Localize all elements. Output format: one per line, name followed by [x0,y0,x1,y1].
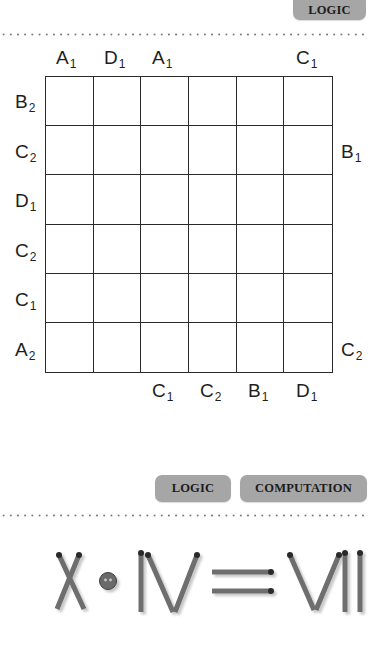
left_labels-label: D1 [15,191,36,213]
grid-cell[interactable] [141,175,189,224]
grid-cell[interactable] [46,323,94,372]
left_labels-label: C1 [15,290,36,312]
grid-cell[interactable] [237,175,285,224]
grid-cell[interactable] [284,274,332,323]
label-letter: C [15,289,29,310]
top_labels-label: A1 [152,48,172,70]
label-letter: B [341,141,354,162]
label-subscript: 1 [167,390,174,404]
bottom_labels-label: C2 [200,381,221,403]
label-letter: D [296,380,310,401]
left_labels-label: A2 [15,340,35,362]
grid-cell[interactable] [46,77,94,126]
grid-cell[interactable] [94,274,142,323]
equals-sign [212,569,274,594]
grid-cell[interactable] [284,126,332,175]
label-subscript: 1 [30,299,37,313]
label-letter: C [341,339,355,360]
badge-label: COMPUTATION [255,481,352,496]
badge-label: LOGIC [172,481,215,496]
bottom_labels-label: B1 [248,381,268,403]
label-letter: D [15,190,29,211]
grid-cell[interactable] [141,77,189,126]
label-subscript: 2 [356,349,363,363]
label-letter: C [200,380,214,401]
top_labels-label: C1 [296,48,317,70]
grid-cell[interactable] [141,274,189,323]
grid-cell[interactable] [237,323,285,372]
left_labels-label: C2 [15,241,36,263]
grid-cell[interactable] [46,126,94,175]
grid-cell[interactable] [237,274,285,323]
label-subscript: 2 [29,101,36,115]
grid-cell[interactable] [237,126,285,175]
grid-cell[interactable] [189,77,237,126]
label-letter: A [152,47,165,68]
numeral-x [56,552,84,609]
grid-cell[interactable] [94,77,142,126]
grid-cell[interactable] [46,274,94,323]
grid-cell[interactable] [94,175,142,224]
left_labels-label: B2 [15,92,35,114]
grid-cell[interactable] [189,323,237,372]
label-letter: A [56,47,69,68]
grid-cell[interactable] [189,225,237,274]
dotted-divider-top [0,33,368,36]
label-subscript: 2 [30,250,37,264]
right_labels-label: B1 [341,142,361,164]
bottom_labels-label: D1 [296,381,317,403]
label-subscript: 1 [30,200,37,214]
grid-cell[interactable] [189,126,237,175]
logic-grid [45,76,333,373]
label-letter: C [152,380,166,401]
right_labels-label: C2 [341,340,362,362]
numeral-vii [287,550,363,612]
label-letter: C [15,240,29,261]
top_labels-label: A1 [56,48,76,70]
grid-cell[interactable] [284,225,332,274]
category-badge-logic: LOGIC [293,0,366,20]
label-letter: B [248,380,261,401]
label-letter: D [104,47,118,68]
multiply-dot-icon [100,573,117,590]
label-subscript: 2 [29,349,36,363]
grid-cell[interactable] [189,274,237,323]
grid-cell[interactable] [46,225,94,274]
label-subscript: 1 [311,390,318,404]
grid-cell[interactable] [141,225,189,274]
top_labels-label: D1 [104,48,125,70]
label-subscript: 2 [215,390,222,404]
dotted-divider-bottom [0,514,368,517]
label-letter: C [15,141,29,162]
label-subscript: 1 [70,57,77,71]
grid-cell[interactable] [94,225,142,274]
grid-cell[interactable] [141,126,189,175]
grid-cell[interactable] [284,175,332,224]
category-badge-computation: COMPUTATION [240,475,367,502]
category-badge-logic: LOGIC [155,475,231,502]
grid-cell[interactable] [284,77,332,126]
grid-cell[interactable] [94,323,142,372]
bottom_labels-label: C1 [152,381,173,403]
label-letter: B [15,91,28,112]
label-subscript: 1 [262,390,269,404]
label-subscript: 1 [166,57,173,71]
label-letter: C [296,47,310,68]
grid-cell[interactable] [237,77,285,126]
matchstick-equation [0,530,390,630]
label-subscript: 2 [30,151,37,165]
label-subscript: 1 [355,151,362,165]
numeral-iv [138,550,200,612]
grid-cell[interactable] [46,175,94,224]
label-subscript: 1 [119,57,126,71]
badge-label: LOGIC [308,3,351,18]
grid-cell[interactable] [141,323,189,372]
grid-cell[interactable] [94,126,142,175]
grid-cell[interactable] [284,323,332,372]
label-subscript: 1 [311,57,318,71]
grid-cell[interactable] [237,225,285,274]
left_labels-label: C2 [15,142,36,164]
grid-cell[interactable] [189,175,237,224]
label-letter: A [15,339,28,360]
